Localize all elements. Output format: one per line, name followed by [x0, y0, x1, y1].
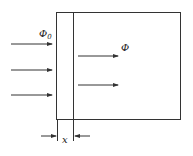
medium-box: [57, 13, 181, 120]
flux-attenuation-diagram: Φ0 Φ x: [0, 0, 193, 156]
thickness-label: x: [62, 134, 68, 145]
transmitted-flux-label: Φ: [121, 42, 129, 53]
incident-flux-label: Φ0: [39, 28, 52, 41]
incident-arrows: [11, 44, 52, 95]
transmitted-arrows: [78, 56, 118, 85]
